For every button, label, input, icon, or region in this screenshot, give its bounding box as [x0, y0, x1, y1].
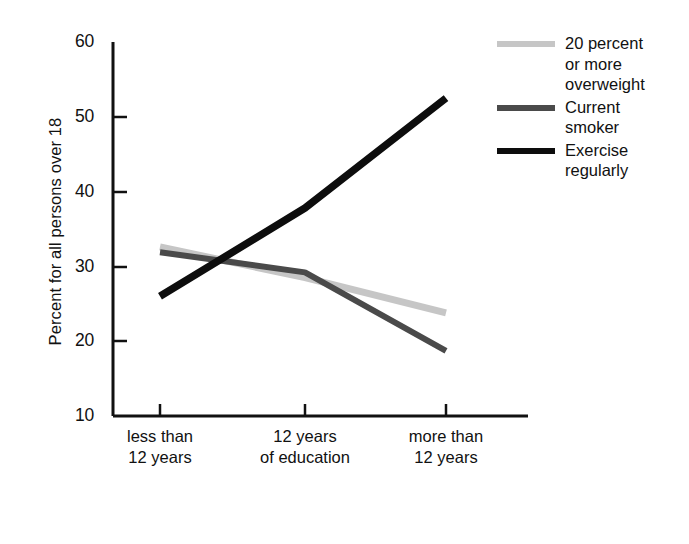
figure-caption: FIGURE 15.5: [0, 487, 300, 544]
y-tick-label-60: 60: [48, 31, 94, 52]
legend-label-line3: overweight: [565, 74, 682, 95]
x-tick-label-line1: less than: [127, 427, 193, 445]
legend-label-line1: 20 percent: [565, 34, 643, 52]
y-tick-label-40: 40: [48, 181, 94, 202]
legend-label-overweight: 20 percent or more overweight: [565, 33, 682, 95]
legend-label-line2: smoker: [565, 117, 682, 138]
x-tick-label-less-than-12-years: less than 12 years: [80, 426, 240, 468]
x-tick-label-line1: 12 years: [273, 427, 336, 445]
y-tick-label-50: 50: [48, 106, 94, 127]
x-tick-label-line1: more than: [409, 427, 483, 445]
y-tick-label-20: 20: [48, 330, 94, 351]
legend-label-current-smoker: Current smoker: [565, 97, 682, 138]
legend-label-exercise-regularly: Exercise regularly: [565, 140, 682, 181]
legend-item-exercise-regularly: Exercise regularly: [497, 140, 682, 181]
figure-container: Percent for all persons over 18 60 50 40…: [0, 0, 689, 544]
legend-swatch-current-smoker: [497, 105, 555, 111]
legend-item-current-smoker: Current smoker: [497, 97, 682, 138]
legend-swatch-exercise-regularly: [497, 148, 555, 154]
legend-item-overweight: 20 percent or more overweight: [497, 33, 682, 95]
x-tick-label-line2: 12 years: [366, 447, 526, 468]
x-tick-label-line2: 12 years: [80, 447, 240, 468]
series-line-exercise-regularly: [160, 98, 446, 296]
x-tick-marks: [160, 404, 446, 416]
x-tick-label-more-than-12-years: more than 12 years: [366, 426, 526, 468]
y-tick-label-10: 10: [48, 405, 94, 426]
legend-label-line2: or more: [565, 54, 682, 75]
x-tick-label-12-years-of-education: 12 years of education: [225, 426, 385, 468]
legend-label-line2: regularly: [565, 160, 682, 181]
legend-swatch-overweight: [497, 41, 555, 47]
chart-legend: 20 percent or more overweight Current sm…: [497, 33, 682, 183]
x-tick-label-line2: of education: [225, 447, 385, 468]
y-tick-label-30: 30: [48, 256, 94, 277]
y-tick-marks: [113, 117, 127, 341]
legend-label-line1: Current: [565, 98, 620, 116]
legend-label-line1: Exercise: [565, 141, 628, 159]
